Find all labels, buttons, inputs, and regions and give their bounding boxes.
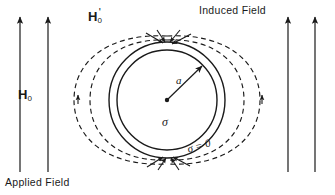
applied-field-symbol-label: H0 (18, 88, 32, 101)
induced-field-prime: ' (99, 6, 101, 18)
induced-lobe-left-inner (90, 40, 167, 160)
physics-field-diagram: H0 H0' Induced Field Applied Field a σ σ… (0, 0, 335, 195)
induced-lobe-left-outer (74, 36, 167, 164)
induced-field-symbol-label: H0' (88, 10, 104, 23)
applied-field-caption: Applied Field (5, 177, 70, 188)
applied-field-arrows-right (288, 17, 315, 172)
radius-arrow (167, 66, 202, 100)
induced-field-caption: Induced Field (199, 5, 266, 16)
center-point (165, 98, 169, 102)
induced-field-symbol: H (88, 9, 97, 24)
induced-lobe-right-outer (167, 36, 260, 164)
conductivity-inside-label: σ (162, 116, 168, 128)
applied-field-symbol: H (18, 87, 27, 102)
applied-field-subscript: 0 (27, 94, 31, 103)
radius-label: a (176, 75, 182, 86)
diagram-canvas (0, 0, 335, 195)
